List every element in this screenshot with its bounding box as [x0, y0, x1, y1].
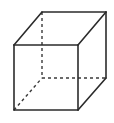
cube-wireframe-svg — [0, 0, 114, 123]
cube-figure — [0, 0, 114, 123]
figure-background — [0, 0, 114, 123]
